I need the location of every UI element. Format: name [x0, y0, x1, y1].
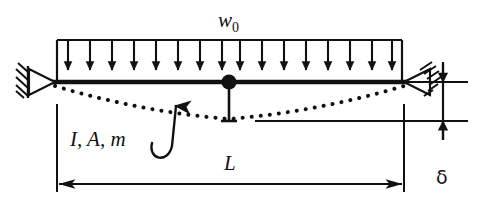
pin-support-left [16, 63, 55, 98]
section-properties-label: I, A, m [69, 127, 126, 151]
section-properties-leader-arrow [151, 106, 176, 158]
load-label: w [218, 8, 232, 32]
distributed-load-group [57, 40, 402, 80]
load-label-group: w 0 [218, 8, 239, 35]
support-hatching-left [16, 63, 28, 98]
support-triangle-left [29, 69, 55, 95]
section-properties-group: I, A, m [69, 106, 176, 158]
span-label: L [223, 151, 236, 175]
deflection-label: δ [436, 166, 448, 188]
pin-support-right [404, 62, 441, 96]
midspan-node-group [221, 74, 237, 122]
load-arrows [68, 40, 392, 70]
load-label-subscript: 0 [232, 20, 239, 35]
beam-diagram-figure: w 0 [0, 0, 480, 206]
beam-diagram-svg: w 0 [0, 0, 480, 206]
midspan-node [221, 74, 236, 89]
